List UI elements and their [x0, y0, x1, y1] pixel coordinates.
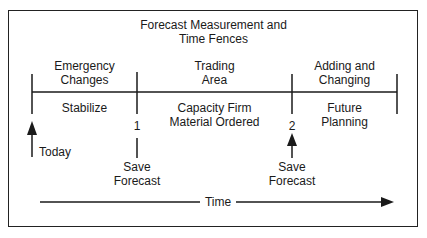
zone-adding-top1: Adding and [292, 59, 397, 73]
time-arrowhead-icon [381, 197, 394, 207]
fence2-label2: Forecast [262, 174, 322, 188]
fence2-number: 2 [282, 119, 302, 133]
zone-adding-bottom1: Future [292, 101, 397, 115]
zone-emergency-top2: Changes [32, 73, 137, 87]
fence2-label1: Save [262, 160, 322, 174]
zone-trading-bottom1: Capacity Firm [137, 101, 292, 115]
zone-adding-top2: Changing [292, 73, 397, 87]
zone-trading-bottom2: Material Ordered [137, 115, 292, 129]
zone-trading-top2: Area [137, 73, 292, 87]
zone-trading-top1: Trading [137, 59, 292, 73]
today-label: Today [39, 145, 71, 159]
zone-emergency-top1: Emergency [32, 59, 137, 73]
fence1-label2: Forecast [107, 174, 167, 188]
zone-adding-bottom2: Planning [292, 115, 397, 129]
today-arrowhead-icon [27, 121, 37, 135]
fence1-label1: Save [107, 160, 167, 174]
fence1-number: 1 [127, 119, 147, 133]
zone-emergency-bottom: Stabilize [32, 101, 137, 115]
fence2-arrowhead-icon [287, 133, 297, 146]
time-axis-label: Time [198, 195, 238, 209]
